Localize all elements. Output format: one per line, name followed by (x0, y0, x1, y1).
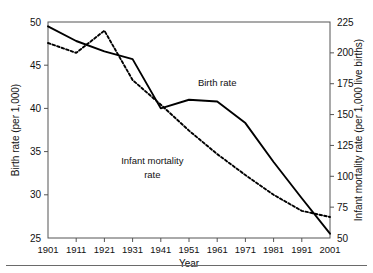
left-axis-tick-label: 45 (30, 60, 42, 71)
left-axis-title: Birth rate (per 1,000) (10, 84, 21, 176)
left-axis-tick-label: 35 (30, 146, 42, 157)
x-axis-tick-label: 2001 (319, 244, 340, 255)
x-axis-tick-label: 1911 (66, 244, 86, 255)
x-axis-tick-label: 1941 (150, 244, 171, 255)
chart-background (0, 0, 373, 273)
right-axis-tick-label: 125 (337, 140, 354, 151)
right-axis-tick-label: 75 (337, 202, 349, 213)
x-axis-tick-label: 1971 (235, 244, 256, 255)
left-axis-tick-label: 25 (30, 233, 42, 244)
infant-mortality-label-line1: Infant mortality (121, 155, 184, 166)
right-axis-tick-label: 100 (337, 171, 354, 182)
x-axis-tick-label: 1981 (263, 244, 284, 255)
birth-rate-label: Birth rate (198, 77, 237, 88)
right-axis-tick-label: 150 (337, 109, 354, 120)
figure-container: 253035404550 5075100125150175200225 1901… (0, 0, 373, 273)
left-axis-tick-label: 50 (30, 17, 42, 28)
right-axis-tick-label: 200 (337, 47, 354, 58)
infant-mortality-label-line2: rate (144, 169, 160, 180)
x-axis-tick-label: 1931 (122, 244, 143, 255)
x-axis-tick-label: 1901 (37, 244, 58, 255)
x-axis-tick-label: 1951 (178, 244, 199, 255)
x-axis-tick-label: 1961 (207, 244, 228, 255)
right-axis-tick-label: 50 (337, 233, 349, 244)
left-axis-tick-label: 40 (30, 103, 42, 114)
left-axis-tick-label: 30 (30, 189, 42, 200)
right-axis-tick-label: 225 (337, 17, 354, 28)
x-axis-tick-label: 1921 (94, 244, 115, 255)
right-axis-tick-label: 175 (337, 78, 354, 89)
x-axis-tick-label: 1991 (291, 244, 312, 255)
right-axis-title: Infant mortality rate (per 1,000 live bi… (353, 39, 364, 221)
x-axis-title: Year (179, 258, 200, 269)
birth-rate-infant-mortality-line-chart: 253035404550 5075100125150175200225 1901… (0, 0, 373, 273)
